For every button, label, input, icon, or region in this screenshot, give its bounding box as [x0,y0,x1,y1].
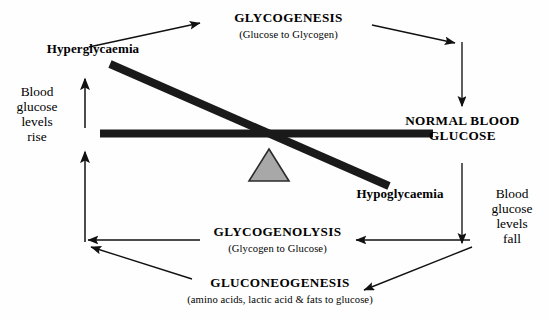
hyperglycaemia-label: Hyperglycaemia [18,41,168,57]
node-glycogenesis: GLYCOGENESIS (Glucose to Glycogen) [206,10,371,40]
levels-fall-line4: fall [481,231,543,246]
hypoglycaemia-label: Hypoglycaemia [330,186,470,202]
gluconeogenesis-subtitle: (amino acids, lactic acid & fats to gluc… [155,294,405,305]
node-gluconeogenesis: GLUCONEOGENESIS (amino acids, lactic aci… [155,275,405,305]
normal-blood-glucose-line2: GLUCOSE [393,128,532,143]
gluconeogenesis-title: GLUCONEOGENESIS [155,275,405,291]
node-normal-blood-glucose: NORMAL BLOOD GLUCOSE [393,113,532,143]
levels-rise-line2: glucose [6,99,68,114]
label-blood-glucose-levels-fall: Blood glucose levels fall [481,186,543,246]
levels-rise-line1: Blood [6,84,68,99]
glycogenesis-subtitle: (Glucose to Glycogen) [206,29,371,40]
levels-fall-line2: glucose [481,201,543,216]
node-hyperglycaemia: Hyperglycaemia [18,41,168,57]
fulcrum-triangle [249,149,289,181]
label-blood-glucose-levels-rise: Blood glucose levels rise [6,84,68,144]
glycogenolysis-title: GLYCOGENOLYSIS [195,224,360,240]
diagram-canvas: GLYCOGENESIS (Glucose to Glycogen) Hyper… [0,0,548,320]
balance-beam-tilted [110,64,389,186]
node-hypoglycaemia: Hypoglycaemia [330,186,470,202]
levels-fall-line1: Blood [481,186,543,201]
node-glycogenolysis: GLYCOGENOLYSIS (Glycogen to Glucose) [195,224,360,254]
levels-fall-line3: levels [481,216,543,231]
glycogenolysis-subtitle: (Glycogen to Glucose) [195,243,360,254]
levels-rise-line4: rise [6,129,68,144]
levels-rise-line3: levels [6,114,68,129]
glycogenesis-title: GLYCOGENESIS [206,10,371,26]
normal-blood-glucose-line1: NORMAL BLOOD [393,113,532,128]
connector-glycogenesis-to-corner [372,25,455,43]
